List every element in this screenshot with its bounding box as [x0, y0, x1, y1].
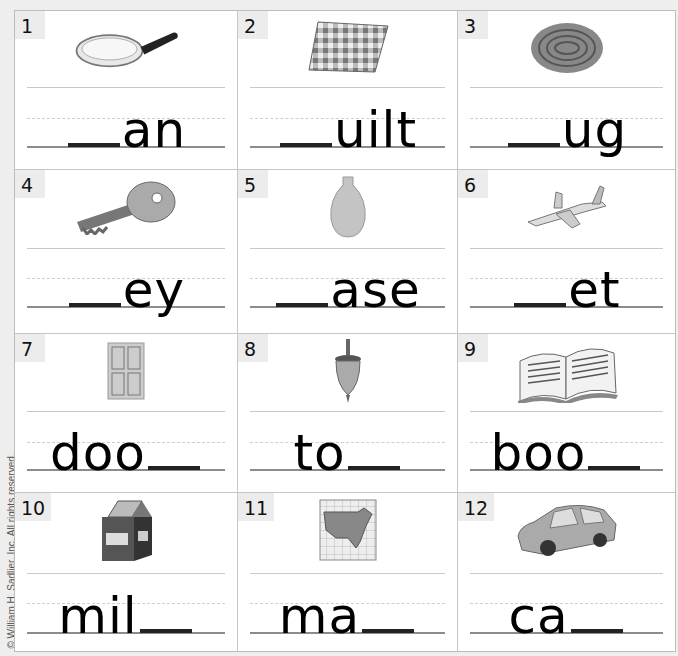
word-part: ey [123, 261, 185, 319]
top-writing-line [470, 573, 663, 574]
top-writing-line [470, 248, 663, 249]
rug-icon [512, 15, 622, 81]
top-writing-line [470, 87, 663, 88]
top-writing-line [27, 248, 225, 249]
word-part: boo [491, 424, 587, 482]
top-writing-line [250, 573, 445, 574]
worksheet-item-6: 6 et [458, 170, 675, 334]
item-number: 2 [238, 11, 268, 39]
door-icon [71, 338, 181, 404]
top-writing-line [27, 87, 225, 88]
answer-blank[interactable] [276, 303, 328, 307]
worksheet-item-10: 10 mil [15, 493, 238, 651]
book-icon [512, 338, 622, 404]
worksheet-grid: 1 an 2 uilt 3 ug 4 ey 5 ase 6 [14, 10, 676, 652]
answer-blank[interactable] [348, 466, 400, 470]
item-number: 1 [15, 11, 45, 39]
word-part: et [568, 261, 620, 319]
item-number: 10 [15, 493, 51, 521]
word-part: doo [50, 424, 146, 482]
worksheet-item-9: 9 boo [458, 334, 675, 493]
item-number: 6 [458, 170, 488, 198]
worksheet-item-3: 3 ug [458, 11, 675, 170]
word-part: ma [279, 587, 360, 645]
worksheet-item-7: 7 doo [15, 334, 238, 493]
answer-blank[interactable] [514, 303, 566, 307]
word-with-blank: uilt [238, 105, 457, 155]
word-with-blank: boo [458, 428, 675, 478]
car-icon [512, 497, 622, 563]
worksheet-item-5: 5 ase [238, 170, 458, 334]
item-number: 8 [238, 334, 268, 362]
answer-blank[interactable] [571, 629, 623, 633]
word-with-blank: ma [238, 591, 457, 641]
top-writing-line [250, 411, 445, 412]
item-number: 7 [15, 334, 45, 362]
item-number: 5 [238, 170, 268, 198]
answer-blank[interactable] [508, 143, 560, 147]
word-with-blank: ase [238, 265, 457, 315]
worksheet-item-2: 2 uilt [238, 11, 458, 170]
item-number: 11 [238, 493, 274, 521]
top-writing-line [27, 411, 225, 412]
answer-blank[interactable] [69, 303, 121, 307]
word-with-blank: et [458, 265, 675, 315]
top-writing-line [250, 248, 445, 249]
quilt-icon [293, 15, 403, 81]
item-number: 12 [458, 493, 494, 521]
word-part: ase [330, 261, 420, 319]
word-part: an [122, 101, 186, 159]
word-with-blank: an [15, 105, 237, 155]
map-icon [293, 497, 403, 563]
top-writing-line [470, 411, 663, 412]
worksheet-item-8: 8 to [238, 334, 458, 493]
answer-blank[interactable] [140, 629, 192, 633]
key-icon [71, 174, 181, 240]
worksheet-item-1: 1 an [15, 11, 238, 170]
word-part: ug [562, 101, 627, 159]
word-part: ca [508, 587, 568, 645]
worksheet-item-11: 11 ma [238, 493, 458, 651]
top-icon [293, 338, 403, 404]
worksheet-item-12: 12 ca [458, 493, 675, 651]
word-with-blank: mil [15, 591, 237, 641]
word-with-blank: doo [15, 428, 237, 478]
answer-blank[interactable] [148, 466, 200, 470]
answer-blank[interactable] [362, 629, 414, 633]
item-number: 3 [458, 11, 488, 39]
item-number: 4 [15, 170, 45, 198]
jet-icon [512, 174, 622, 240]
item-number: 9 [458, 334, 488, 362]
milk-icon [71, 497, 181, 563]
word-with-blank: ug [458, 105, 675, 155]
word-part: mil [58, 587, 138, 645]
top-writing-line [27, 573, 225, 574]
top-writing-line [250, 87, 445, 88]
word-part: uilt [334, 101, 417, 159]
answer-blank[interactable] [68, 143, 120, 147]
word-part: to [293, 424, 345, 482]
worksheet-item-4: 4 ey [15, 170, 238, 334]
word-with-blank: to [238, 428, 457, 478]
answer-blank[interactable] [280, 143, 332, 147]
answer-blank[interactable] [588, 466, 640, 470]
vase-icon [293, 174, 403, 240]
word-with-blank: ca [458, 591, 675, 641]
frying-pan-icon [71, 15, 181, 81]
word-with-blank: ey [15, 265, 237, 315]
